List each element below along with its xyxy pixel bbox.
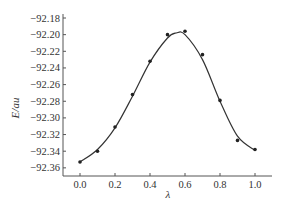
x-tick-label: 0.6	[178, 179, 191, 190]
data-point-marker	[78, 160, 82, 164]
plot-area: −92.18−92.20−92.22−92.24−92.26−92.28−92.…	[0, 0, 287, 209]
data-point-marker	[218, 99, 222, 103]
y-tick-label: −92.24	[30, 62, 60, 73]
data-points	[78, 30, 257, 164]
x-tick-label: 0.8	[213, 179, 226, 190]
x-tick-label: 0.2	[108, 179, 121, 190]
data-point-marker	[148, 59, 152, 63]
data-point-marker	[131, 93, 135, 97]
data-point-marker	[201, 53, 205, 57]
energy-vs-lambda-chart: −92.18−92.20−92.22−92.24−92.26−92.28−92.…	[0, 0, 287, 209]
data-point-marker	[236, 139, 240, 143]
data-point-marker	[96, 149, 100, 153]
y-tick-label: −92.32	[30, 129, 60, 140]
x-tick-label: 0.0	[73, 179, 86, 190]
data-point-marker	[253, 148, 257, 152]
y-tick-label: −92.30	[30, 112, 60, 123]
y-axis-label: E/au	[9, 97, 21, 119]
y-tick-label: −92.18	[30, 13, 60, 24]
data-point-marker	[183, 30, 187, 34]
fitted-curve	[80, 32, 255, 162]
fit-line	[80, 32, 255, 162]
y-tick-label: −92.26	[30, 79, 60, 90]
y-tick-label: −92.36	[30, 162, 60, 173]
y-tick-label: −92.22	[30, 46, 60, 57]
x-tick-label: 0.4	[143, 179, 157, 190]
y-tick-label: −92.20	[30, 29, 60, 40]
y-tick-label: −92.28	[30, 96, 60, 107]
y-tick-label: −92.34	[30, 146, 60, 157]
axes: −92.18−92.20−92.22−92.24−92.26−92.28−92.…	[30, 13, 272, 191]
data-point-marker	[113, 125, 117, 129]
data-point-marker	[166, 33, 170, 37]
x-tick-label: 1.0	[248, 179, 261, 190]
x-axis-label: λ	[165, 188, 171, 200]
